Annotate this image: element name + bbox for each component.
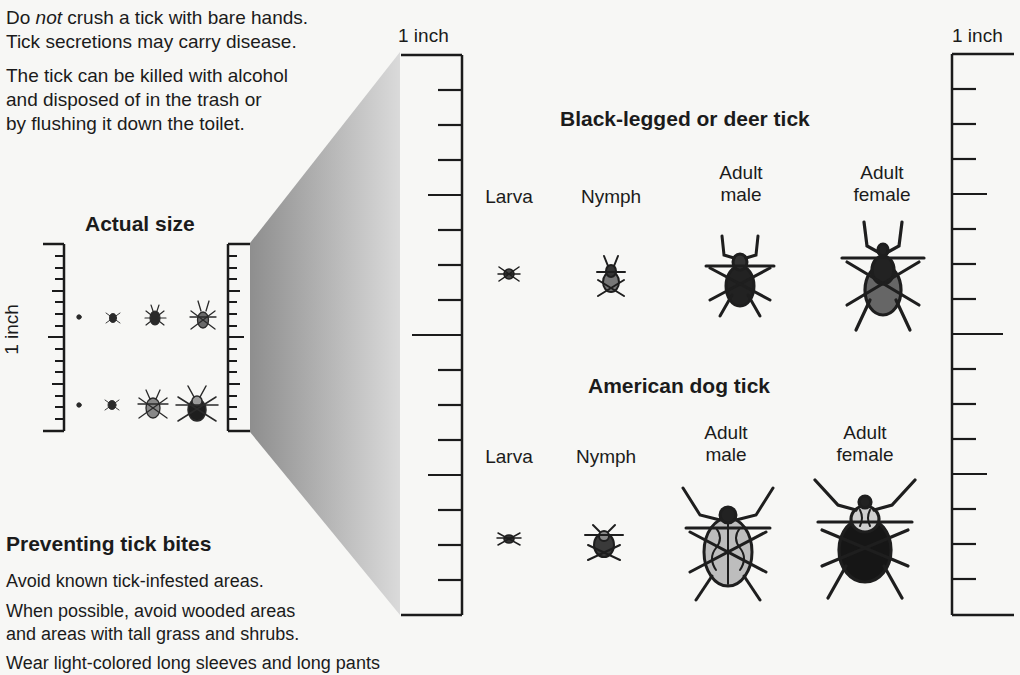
deer-adult-male-art: [706, 236, 774, 316]
deer-adult-female-art: [842, 222, 924, 330]
deer-tick-title: Black-legged or deer tick: [560, 107, 810, 131]
deer-larva-label: Larva: [478, 186, 540, 208]
right-ruler-label: 1 inch: [952, 24, 1003, 47]
main-ruler: [401, 55, 462, 615]
actual-size-ruler-right: [228, 244, 250, 431]
dog-tick-title: American dog tick: [588, 374, 770, 398]
right-ruler: [952, 54, 1014, 615]
deer-adult-female-label: Adultfemale: [846, 162, 918, 206]
prevention-line1: Avoid known tick-infested areas.: [6, 570, 264, 593]
deer-nymph-label: Nymph: [575, 186, 647, 208]
prevention-title: Preventing tick bites: [6, 532, 211, 556]
actual-size-ruler-left: [43, 244, 64, 431]
dog-nymph-label: Nymph: [570, 446, 642, 468]
dog-larva-art: [497, 533, 521, 545]
dog-tick-illustrations: [497, 480, 915, 600]
main-ruler-label: 1 inch: [398, 24, 449, 47]
dog-nymph-art: [585, 525, 623, 560]
prevention-line3: and areas with tall grass and shrubs.: [6, 623, 299, 646]
deer-nymph-art: [597, 256, 625, 296]
actual-size-ticks: [77, 301, 218, 421]
dog-adult-male-label: Adultmale: [695, 422, 757, 466]
dog-adult-male-art: [683, 488, 773, 600]
deer-tick-illustrations: [498, 222, 924, 330]
dog-adult-female-label: Adultfemale: [829, 422, 901, 466]
dog-adult-female-art: [815, 480, 915, 598]
deer-larva-art: [498, 267, 520, 281]
prevention-line4: Wear light-colored long sleeves and long…: [6, 652, 380, 675]
deer-adult-male-label: Adultmale: [710, 162, 772, 206]
dog-larva-label: Larva: [478, 446, 540, 468]
prevention-line2: When possible, avoid wooded areas: [6, 600, 295, 623]
